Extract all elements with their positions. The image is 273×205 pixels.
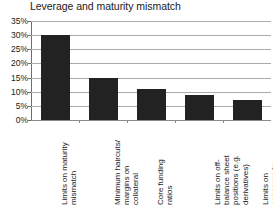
x-axis-category-label-line: derivatives) [241,124,250,205]
y-axis-tick-label: 25% [0,45,28,54]
bar [89,78,118,120]
x-axis-tick-mark [223,120,224,123]
x-axis-category-label-line: collateral [131,124,140,205]
x-axis-tick-mark [127,120,128,123]
x-axis-category-label-line: ratios [165,124,174,205]
y-axis-tick-labels: 35%30%25%20%15%10%5%0% [0,21,28,120]
x-axis-category-label: Limits on maturitymismatch [60,124,78,205]
x-axis-category-label-line: balance sheet [222,124,231,205]
x-axis-category-label: Limits on off-balance sheetpositions (e.… [213,124,250,205]
x-axis-category-label-line: positions (e.g. [231,124,240,205]
x-axis-category-label-line: Limits on off- [213,124,222,205]
x-axis-category-label: Core fundingratios [156,124,174,205]
y-axis-tick-label: 5% [0,102,28,111]
x-axis-category-label-line: Limits on maturity [60,124,69,205]
y-axis-tick-label: 30% [0,31,28,40]
x-axis-category-label-line: mismatch [69,124,78,205]
y-axis-tick-label: 20% [0,59,28,68]
y-axis-tick-label: 0% [0,116,28,125]
bar [41,35,70,120]
y-axis-tick-label: 35% [0,17,28,26]
x-axis-category-label-line: Core funding [156,124,165,205]
y-axis-tick-label: 15% [0,74,28,83]
x-axis-category-label: Minimum haircuts/margins oncollateral [113,124,141,205]
chart-title: Leverage and maturity mismatch [30,0,260,13]
x-axis-category-labels: Limits on maturitymismatchMinimum haircu… [31,124,271,205]
plot-area [31,21,271,120]
bar [185,95,214,120]
x-axis-category-label-line: Limits on [261,124,270,205]
x-axis-category-label: Limits onexposure byinstrument (e.g.CDS) [261,124,273,205]
x-axis-category-label-line: exposure by [270,124,273,205]
x-axis-tick-mark [175,120,176,123]
bar [137,89,166,120]
x-axis-category-label-line: Minimum haircuts/ [113,124,122,205]
x-axis-category-label-line: margins on [122,124,131,205]
gridline [31,21,271,22]
x-axis-tick-mark [79,120,80,123]
bar-chart: Leverage and maturity mismatch 35%30%25%… [0,0,273,205]
bar [233,100,262,120]
y-axis-tick-label: 10% [0,88,28,97]
